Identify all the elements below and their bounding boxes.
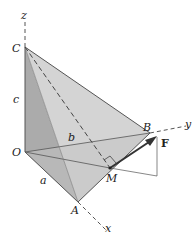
label-A: A: [70, 204, 79, 217]
label-B: B: [142, 121, 151, 134]
label-c: c: [13, 93, 19, 106]
label-b: b: [68, 131, 75, 144]
point-M: [108, 166, 111, 169]
x-axis: [78, 202, 106, 230]
label-x: x: [105, 222, 112, 235]
label-M: M: [105, 172, 118, 185]
tetrahedron-diagram: z C c b O a M A x B y F: [0, 0, 195, 248]
label-F: F: [161, 137, 169, 150]
y-axis: [150, 126, 186, 133]
label-O: O: [12, 146, 21, 159]
label-a: a: [40, 174, 47, 187]
label-C: C: [12, 42, 21, 55]
label-y: y: [184, 118, 192, 131]
label-z: z: [20, 9, 27, 22]
